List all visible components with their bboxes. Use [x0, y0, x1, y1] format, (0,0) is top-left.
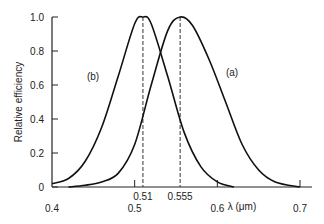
series-label-a: (a) [226, 67, 238, 78]
y-tick-label: 1.0 [30, 12, 44, 23]
peak-label: 0.51 [133, 191, 153, 202]
x-tick-label: 0.5 [128, 203, 142, 214]
x-tick-label: 0.4 [45, 203, 59, 214]
x-tick-label: 0.6 [210, 203, 224, 214]
y-tick-label: 0.8 [30, 46, 44, 57]
series-curves [52, 17, 300, 187]
x-tick-label: 0.7 [293, 203, 307, 214]
peak-label: 0.555 [168, 191, 193, 202]
efficiency-chart: 00.20.40.60.81.0 0.40.50.60.7 0.510.555 … [0, 0, 324, 224]
y-ticks: 00.20.40.60.81.0 [30, 12, 58, 193]
y-tick-label: 0.4 [30, 114, 44, 125]
y-tick-label: 0.6 [30, 80, 44, 91]
curve-a [69, 17, 300, 187]
x-axis-title: λ (μm) [228, 201, 257, 212]
series-label-b: (b) [87, 71, 99, 82]
y-tick-label: 0 [38, 182, 44, 193]
y-axis-title: Relative efficiency [13, 62, 24, 142]
y-tick-label: 0.2 [30, 148, 44, 159]
